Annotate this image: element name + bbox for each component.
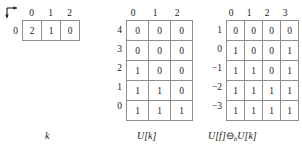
grid-row: 0 0 0 — [127, 41, 193, 61]
table-u: 0 1 2 4 3 2 1 0 0 0 0 0 0 0 — [122, 7, 193, 121]
grid-cell: 1 — [281, 41, 299, 61]
grid-cell: 1 — [227, 41, 245, 61]
grid-row: 0 0 0 — [127, 21, 193, 41]
row-label: −1 — [202, 58, 226, 77]
grid-cell: 0 — [149, 61, 171, 81]
row-label: 0 — [0, 20, 22, 41]
column-header: 3 — [276, 7, 294, 20]
grid-cell: 0 — [263, 21, 281, 41]
grid-cell: 1 — [245, 101, 263, 121]
grid-cell: 1 — [245, 61, 263, 81]
row-label: 2 — [106, 58, 126, 77]
grid-cell: 0 — [171, 81, 193, 101]
column-header: 2 — [258, 7, 276, 20]
grid-cell: 1 — [227, 61, 245, 81]
grid-cell: 1 — [263, 101, 281, 121]
caption-erosion: U[f]⊖bU[k] — [208, 130, 257, 143]
column-header: 0 — [122, 7, 144, 20]
caption-u: U[k] — [137, 130, 156, 141]
row-label: −2 — [202, 77, 226, 96]
grid-cell: 0 — [149, 21, 171, 41]
grid-cell: 1 — [149, 81, 171, 101]
grid-cell: 1 — [263, 81, 281, 101]
grid-row: 0 0 0 0 — [227, 21, 299, 41]
grid-row: 2 1 0 — [23, 21, 80, 41]
grid-row: 1 0 0 1 — [227, 41, 299, 61]
row-label: 0 — [202, 39, 226, 58]
row-label: 4 — [106, 20, 126, 39]
grid-cell: 0 — [263, 61, 281, 81]
grid-cell: 0 — [281, 21, 299, 41]
grid-cell: 2 — [23, 21, 42, 41]
table-erosion: 0 1 2 3 1 0 −1 −2 −3 0 0 0 0 1 — [222, 7, 299, 121]
grid-cell: 0 — [227, 21, 245, 41]
grid-cell: 1 — [281, 81, 299, 101]
grid-row: 1 0 0 — [127, 61, 193, 81]
column-header: 2 — [166, 7, 188, 20]
table-erosion-column-headers: 0 1 2 3 — [222, 7, 299, 20]
table-u-grid: 0 0 0 0 0 0 1 0 0 1 1 0 — [126, 20, 193, 121]
table-u-column-headers: 0 1 2 — [122, 7, 193, 20]
grid-cell: 1 — [227, 81, 245, 101]
table-u-body: 4 3 2 1 0 0 0 0 0 0 0 1 0 — [122, 20, 193, 121]
grid-row: 1 1 1 1 — [227, 81, 299, 101]
grid-cell: 1 — [281, 101, 299, 121]
table-erosion-grid: 0 0 0 0 1 0 0 1 1 1 0 1 1 — [226, 20, 299, 121]
grid-cell: 1 — [149, 101, 171, 121]
column-header: 1 — [41, 7, 60, 20]
grid-row: 1 1 0 — [127, 81, 193, 101]
caption-erosion-right: U[k] — [237, 130, 256, 141]
grid-cell: 0 — [171, 21, 193, 41]
row-label: 1 — [106, 77, 126, 96]
row-label: 1 — [202, 20, 226, 39]
column-header: 1 — [240, 7, 258, 20]
column-header: 2 — [60, 7, 79, 20]
grid-cell: 0 — [149, 41, 171, 61]
row-label: −3 — [202, 96, 226, 115]
grid-cell: 1 — [281, 61, 299, 81]
grid-cell: 1 — [42, 21, 61, 41]
row-label: 3 — [106, 39, 126, 58]
grid-row: 1 1 0 1 — [227, 61, 299, 81]
grid-cell: 1 — [127, 101, 149, 121]
table-erosion-body: 1 0 −1 −2 −3 0 0 0 0 1 0 0 1 — [222, 20, 299, 121]
grid-cell: 0 — [171, 41, 193, 61]
table-k: 0 1 2 0 2 1 0 — [22, 7, 80, 41]
caption-k: k — [45, 130, 49, 141]
grid-cell: 1 — [171, 101, 193, 121]
grid-row: 1 1 1 — [127, 101, 193, 121]
grid-cell: 1 — [127, 81, 149, 101]
grid-cell: 0 — [171, 61, 193, 81]
table-k-column-headers: 0 1 2 — [22, 7, 80, 20]
grid-cell: 0 — [61, 21, 80, 41]
grid-cell: 0 — [127, 21, 149, 41]
table-row: 0 2 1 0 — [22, 20, 80, 41]
grid-cell: 0 — [127, 41, 149, 61]
grid-cell: 0 — [245, 21, 263, 41]
column-header: 0 — [22, 7, 41, 20]
table-k-grid: 2 1 0 — [22, 20, 80, 41]
grid-cell: 1 — [227, 101, 245, 121]
caption-erosion-left: U[f] — [208, 130, 226, 141]
grid-cell: 1 — [245, 81, 263, 101]
grid-cell: 1 — [127, 61, 149, 81]
column-header: 1 — [144, 7, 166, 20]
column-header: 0 — [222, 7, 240, 20]
grid-cell: 0 — [263, 41, 281, 61]
grid-cell: 0 — [245, 41, 263, 61]
erosion-operator-icon: ⊖ — [226, 130, 234, 141]
row-label: 0 — [106, 96, 126, 115]
morphology-figure: 0 1 2 0 2 1 0 k 0 1 2 4 3 2 — [0, 0, 302, 149]
grid-row: 1 1 1 1 — [227, 101, 299, 121]
